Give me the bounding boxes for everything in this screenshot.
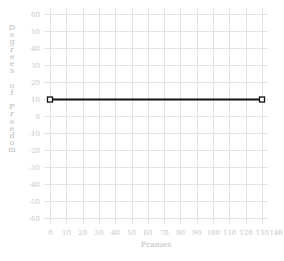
x-axis-title: Frames [141,240,172,249]
y-axis-tick-labels: 6050403020100-10-20-30-40-50-60 [29,11,40,223]
y-axis-title-letter: s [10,66,14,75]
y-tick-label: -30 [29,164,40,172]
data-point-marker[interactable] [48,97,53,102]
y-tick-label: 0 [36,113,40,121]
x-tick-label: 70 [160,229,169,237]
x-tick-label: 120 [239,229,252,237]
data-point-marker[interactable] [260,97,265,102]
y-axis-title-letter: m [8,145,16,154]
x-tick-label: 0 [48,229,52,237]
horizontal-gridlines [44,15,268,219]
x-tick-label: 20 [78,229,87,237]
x-tick-label: 90 [192,229,201,237]
y-tick-label: -10 [29,130,40,138]
y-tick-label: 10 [31,96,40,104]
x-tick-label: 40 [111,229,120,237]
y-tick-label: -50 [29,198,40,206]
x-tick-label: 150 [283,229,284,237]
x-tick-label: 100 [207,229,220,237]
x-axis-tick-labels: 0102030405060708090100110120130140150 [48,229,284,237]
x-tick-label: 60 [144,229,153,237]
x-tick-label: 140 [269,229,282,237]
x-tick-label: 50 [127,229,136,237]
y-axis-title: Degrees of Freedom [8,23,16,154]
y-tick-label: -60 [29,215,40,223]
y-tick-label: 60 [31,11,40,19]
y-tick-label: -20 [29,147,40,155]
line-chart: 6050403020100-10-20-30-40-50-60 01020304… [0,0,284,261]
y-tick-label: 50 [31,28,40,36]
y-tick-label: 20 [31,79,40,87]
x-tick-label: 80 [176,229,185,237]
y-tick-label: 30 [31,62,40,70]
x-tick-label: 10 [62,229,71,237]
x-tick-label: 130 [256,229,269,237]
y-tick-label: 40 [31,45,40,53]
data-series [48,97,265,102]
x-tick-label: 110 [223,229,236,237]
x-tick-label: 30 [95,229,104,237]
y-tick-label: -40 [29,181,40,189]
